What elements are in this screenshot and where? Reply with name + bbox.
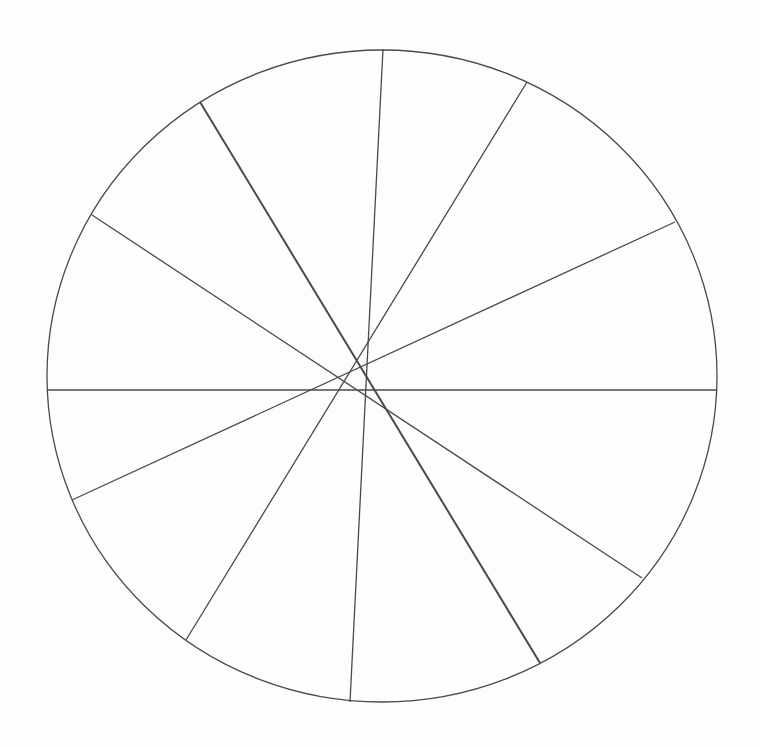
- chord-shallow-up: [72, 222, 675, 500]
- diagram-canvas: [0, 0, 760, 747]
- circle-chord-diagram: [0, 0, 760, 747]
- chord-steep-thick: [200, 102, 540, 663]
- outer-circle: [47, 50, 717, 702]
- chord-lines: [47, 49, 717, 702]
- chord-shallow-down: [92, 215, 642, 578]
